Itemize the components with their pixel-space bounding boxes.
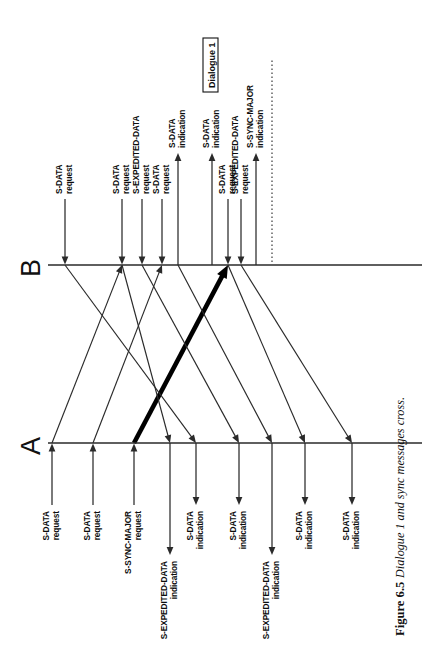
a-arrowhead-a7 bbox=[269, 547, 276, 555]
b-arrowhead-b3 bbox=[139, 257, 146, 265]
a-arrowhead-a6 bbox=[236, 497, 243, 505]
b-label-kind-b5: indication bbox=[177, 110, 187, 148]
b-label-name-b1: S-DATA bbox=[54, 164, 64, 194]
message-arrowhead-m9 bbox=[345, 434, 352, 443]
b-arrowhead-b6 bbox=[209, 153, 216, 161]
a-arrowhead-a1 bbox=[49, 444, 56, 452]
a-label-kind-a3: request bbox=[133, 511, 143, 541]
b-arrowhead-b5 bbox=[175, 153, 182, 161]
a-arrowhead-a2 bbox=[90, 444, 97, 452]
b-arrowhead-b1 bbox=[62, 257, 69, 265]
a-label-kind-a2: request bbox=[92, 511, 102, 541]
b-label-name-b3: S-EXPEDITED-DATA bbox=[131, 116, 141, 194]
b-label-name-b2: S-DATA bbox=[111, 164, 121, 194]
endpoint-label-b: B bbox=[16, 259, 46, 277]
b-arrowhead-b8 bbox=[238, 257, 245, 265]
message-line-m6 bbox=[142, 265, 237, 439]
figure-caption-number: Figure 6.5 bbox=[393, 582, 407, 636]
message-arrowhead-m5 bbox=[165, 434, 171, 443]
endpoint-label-a: A bbox=[16, 437, 46, 455]
a-arrowhead-a5 bbox=[193, 497, 200, 505]
b-label-name-b5: S-DATA bbox=[167, 118, 177, 148]
b-label-name-b8: S-EXPEDITED-DATA bbox=[230, 116, 240, 194]
sequence-diagram-figure: S-DATArequestS-DATArequestS-EXPEDITED-DA… bbox=[0, 0, 424, 650]
b-label-kind-b3: request bbox=[141, 164, 151, 194]
a-label-kind-a8: indication bbox=[304, 511, 314, 549]
a-label-kind-a6: indication bbox=[238, 511, 248, 549]
a-label-name-a1: S-DATA bbox=[41, 511, 51, 541]
a-label-kind-a1: request bbox=[51, 511, 61, 541]
b-arrowhead-b2 bbox=[119, 257, 126, 265]
a-label-name-a8: S-DATA bbox=[294, 511, 304, 541]
message-arrowhead-m4 bbox=[189, 435, 196, 443]
a-label-kind-a7: indication bbox=[271, 561, 281, 599]
a-arrowhead-a4 bbox=[167, 547, 174, 555]
a-arrowhead-a9 bbox=[349, 497, 356, 505]
b-arrowhead-b7 bbox=[225, 257, 232, 265]
message-arrowhead-m1 bbox=[116, 265, 122, 274]
a-label-name-a6: S-DATA bbox=[228, 511, 238, 541]
dialogue-annotation-label: Dialogue 1 bbox=[207, 42, 217, 88]
a-label-name-a4: S-EXPEDITED-DATA bbox=[159, 561, 169, 639]
b-label-kind-b2: request bbox=[121, 164, 131, 194]
figure-page: S-DATArequestS-DATArequestS-EXPEDITED-DA… bbox=[0, 0, 424, 650]
b-arrowhead-b4 bbox=[159, 257, 166, 265]
b-arrowhead-b9 bbox=[253, 153, 260, 161]
b-label-name-b6: S-DATA bbox=[201, 118, 211, 148]
a-label-name-a3: S-SYNC-MAJOR bbox=[123, 511, 133, 574]
message-line-m1 bbox=[52, 269, 120, 443]
message-line-m3 bbox=[134, 271, 225, 443]
a-label-kind-a9: indication bbox=[351, 511, 361, 549]
b-label-kind-b6: indication bbox=[211, 110, 221, 148]
message-line-m8 bbox=[228, 265, 303, 439]
b-label-name-b4: S-DATA bbox=[151, 164, 161, 194]
a-label-kind-a5: indication bbox=[195, 511, 205, 549]
a-label-name-a9: S-DATA bbox=[341, 511, 351, 541]
b-label-kind-b9: indication bbox=[255, 110, 265, 148]
message-line-m7 bbox=[178, 265, 270, 439]
a-label-name-a5: S-DATA bbox=[185, 511, 195, 541]
b-label-name-b7: S-DATA bbox=[217, 164, 227, 194]
a-arrowhead-a3 bbox=[131, 444, 138, 452]
b-label-kind-b8: request bbox=[240, 164, 250, 194]
diagram-canvas: S-DATArequestS-DATArequestS-EXPEDITED-DA… bbox=[0, 0, 424, 650]
b-label-name-b9: S-SYNC-MAJOR bbox=[245, 85, 255, 148]
a-label-name-a2: S-DATA bbox=[82, 511, 92, 541]
a-label-kind-a4: indication bbox=[169, 561, 179, 599]
b-label-kind-b1: request bbox=[64, 164, 74, 194]
a-arrowhead-a8 bbox=[302, 497, 309, 505]
figure-caption-text: Dialogue 1 and sync messages cross. bbox=[393, 397, 407, 579]
b-label-kind-b4: request bbox=[161, 164, 171, 194]
a-label-name-a7: S-EXPEDITED-DATA bbox=[261, 561, 271, 639]
message-arrowhead-m2 bbox=[156, 265, 162, 274]
message-line-m9 bbox=[241, 265, 350, 439]
